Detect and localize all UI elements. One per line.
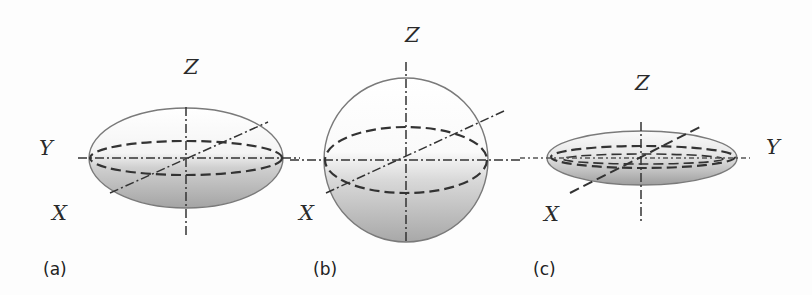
panel-a: Z Y X (a) (39, 55, 300, 279)
y-label-a: Y (39, 136, 55, 160)
z-label-b: Z (404, 23, 420, 47)
z-label-c: Z (634, 71, 650, 95)
x-label-b: X (297, 201, 315, 225)
z-label-a: Z (183, 55, 199, 79)
panel-c: Z Y X (c) (520, 71, 782, 279)
panel-label-b: (b) (313, 259, 337, 279)
spheroid-figure: Z Y X (a) Z X (b) Z Y X (c) (0, 0, 812, 295)
panel-label-a: (a) (43, 259, 67, 279)
x-label-c: X (542, 202, 560, 226)
x-label-a: X (50, 201, 68, 225)
panel-b: Z X (b) (290, 23, 520, 279)
panel-label-c: (c) (533, 259, 556, 279)
y-label-c: Y (766, 135, 782, 159)
